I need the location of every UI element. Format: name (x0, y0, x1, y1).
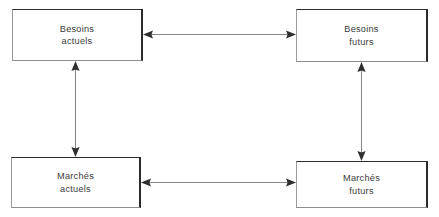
node-besoins-actuels[interactable]: Besoins actuels (12, 9, 143, 61)
node-besoins-futurs[interactable]: Besoins futurs (296, 9, 428, 62)
connector-left-vertical[interactable] (68, 61, 83, 157)
node-label-line1: Besoins (60, 23, 94, 35)
node-label-line2: actuels (62, 35, 93, 47)
node-label-line2: futurs (349, 185, 373, 197)
node-marches-actuels[interactable]: Marchés actuels (11, 157, 141, 208)
connector-top-horizontal[interactable] (143, 27, 296, 42)
node-label-line2: futurs (349, 36, 373, 48)
connector-right-vertical[interactable] (354, 62, 369, 161)
node-label-line1: Marchés (343, 172, 380, 184)
node-label-line1: Marchés (57, 170, 94, 182)
node-label-line1: Besoins (344, 23, 378, 35)
diagram-canvas: Besoins actuels Besoins futurs Marchés a… (0, 0, 439, 217)
node-label-line2: actuels (60, 183, 91, 195)
node-marches-futurs[interactable]: Marchés futurs (296, 161, 428, 208)
connector-bottom-horizontal[interactable] (141, 175, 296, 190)
